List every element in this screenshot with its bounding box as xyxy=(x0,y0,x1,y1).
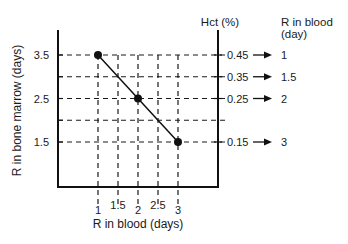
hct-value: 0.25 xyxy=(227,93,248,105)
x-tick-label: 1.5 xyxy=(110,199,125,211)
x-tick-label: 2 xyxy=(135,204,141,216)
r-in-blood-value: 1 xyxy=(281,49,287,61)
y-axis-title: R in bone marrow (days) xyxy=(10,45,24,176)
y-tick-label: 3.5 xyxy=(34,49,49,61)
r-in-blood-value: 3 xyxy=(281,136,287,148)
dashed-grid xyxy=(58,55,226,205)
y-tick-label: 1.5 xyxy=(34,136,49,148)
x-tick-label: 2.5 xyxy=(150,199,165,211)
x-tick-label: 3 xyxy=(175,204,181,216)
annotation-header-line2: (day) xyxy=(281,28,307,40)
y-tick-label: 2.5 xyxy=(34,93,49,105)
data-point xyxy=(94,51,102,59)
annotation-header-line1: R in blood xyxy=(281,16,333,28)
r-in-blood-value: 2 xyxy=(281,93,287,105)
hct-value: 0.45 xyxy=(227,49,248,61)
right-axis-title: Hct (%) xyxy=(201,16,240,28)
data-point xyxy=(174,138,182,146)
hct-value: 0.35 xyxy=(227,71,248,83)
data-point xyxy=(134,95,142,103)
x-axis-title: R in blood (days) xyxy=(93,217,184,231)
hct-value: 0.15 xyxy=(227,136,248,148)
x-tick-label: 1 xyxy=(95,204,101,216)
hct-reticulocyte-chart: 3.52.51.5R in bone marrow (days)11.522.5… xyxy=(0,0,348,244)
r-in-blood-value: 1.5 xyxy=(281,71,296,83)
